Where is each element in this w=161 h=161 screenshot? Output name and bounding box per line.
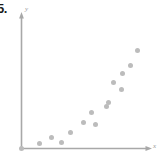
x-axis-label: x bbox=[153, 143, 156, 150]
data-point bbox=[19, 146, 24, 151]
y-axis-label: y bbox=[25, 6, 28, 13]
data-point bbox=[37, 141, 42, 146]
data-point bbox=[111, 80, 116, 85]
plot-area: y x bbox=[0, 0, 161, 161]
data-point bbox=[106, 100, 111, 105]
y-axis-arrow-icon bbox=[19, 12, 24, 19]
axes bbox=[0, 0, 161, 161]
data-point bbox=[68, 130, 73, 135]
data-point bbox=[81, 120, 86, 125]
data-point bbox=[119, 87, 124, 92]
scatter-plot-figure: 5. y x bbox=[0, 0, 161, 161]
x-axis-arrow-icon bbox=[146, 146, 153, 151]
data-point bbox=[120, 71, 125, 76]
